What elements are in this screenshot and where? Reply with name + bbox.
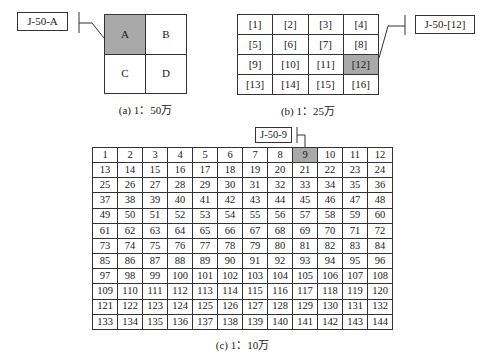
- panel-c-cell: 39: [143, 193, 168, 208]
- panel-b-cell: [4]: [343, 15, 378, 35]
- panel-c-cell: 19: [243, 163, 268, 178]
- panel-c-cell: 89: [193, 254, 218, 269]
- panel-c-cell: 7: [243, 148, 268, 163]
- panel-b-cell: [3]: [308, 15, 343, 35]
- panel-c-cell: 33: [293, 178, 318, 193]
- panel-c-cell: 140: [268, 314, 293, 329]
- panel-b-row: [9][10][11][12]: [238, 55, 379, 75]
- panel-c-cell: 91: [243, 254, 268, 269]
- panel-c-cell: 27: [143, 178, 168, 193]
- panel-c-cell: 70: [318, 223, 343, 238]
- panel-c-cell: 49: [93, 208, 118, 223]
- panel-c-cell: 73: [93, 238, 118, 253]
- panel-c-cell: 104: [268, 269, 293, 284]
- panel-c-cell: 88: [168, 254, 193, 269]
- panel-c-cell: 116: [268, 284, 293, 299]
- panel-b-cell: [7]: [308, 35, 343, 55]
- panel-a-caption: (a) 1：50万: [104, 101, 187, 117]
- panel-c-row: 979899100101102103104105106107108: [93, 269, 393, 284]
- panel-c-cell: 94: [318, 254, 343, 269]
- panel-c-cell: 83: [343, 238, 368, 253]
- panel-c-cell: 138: [218, 314, 243, 329]
- panel-c-cell: 77: [193, 238, 218, 253]
- panel-c-cell: 144: [368, 314, 393, 329]
- panel-c-cell: 12: [368, 148, 393, 163]
- panel-c-cell: 24: [368, 163, 393, 178]
- panel-c-row: 616263646566676869707172: [93, 223, 393, 238]
- panel-c-cell: 124: [168, 299, 193, 314]
- panel-c-cell: 35: [343, 178, 368, 193]
- panel-c-cell: 45: [293, 193, 318, 208]
- panel-c-cell: 85: [93, 254, 118, 269]
- panel-c-cell: 81: [293, 238, 318, 253]
- panel-c-cell: 51: [143, 208, 168, 223]
- panel-c-cell: 52: [168, 208, 193, 223]
- panel-c-row: 131415161718192021222324: [93, 163, 393, 178]
- panel-b-caption: (b) 1：25万: [237, 102, 379, 118]
- panel-c-cell: 62: [118, 223, 143, 238]
- panel-b-row: [13][14][15][16]: [238, 75, 379, 95]
- panel-a-row: CD: [105, 54, 187, 94]
- panel-c-cell: 6: [218, 148, 243, 163]
- panel-c-cell: 133: [93, 314, 118, 329]
- panel-c-cell: 65: [193, 223, 218, 238]
- panel-c-cell: 40: [168, 193, 193, 208]
- panel-c-cell: 92: [268, 254, 293, 269]
- panel-c-cell: 115: [243, 284, 268, 299]
- panel-c-cell: 111: [143, 284, 168, 299]
- panel-c-cell: 74: [118, 238, 143, 253]
- panel-c-cell: 96: [368, 254, 393, 269]
- panel-c-cell: 21: [293, 163, 318, 178]
- panel-c-cell: 110: [118, 284, 143, 299]
- panel-c-cell: 64: [168, 223, 193, 238]
- panel-c-cell: 43: [243, 193, 268, 208]
- panel-c-cell: 119: [343, 284, 368, 299]
- panel-c-cell: 8: [268, 148, 293, 163]
- panel-c-cell: 67: [243, 223, 268, 238]
- panel-c-cell: 130: [318, 299, 343, 314]
- panel-c-cell: 117: [293, 284, 318, 299]
- panel-c-cell: 86: [118, 254, 143, 269]
- panel-b-cell: [9]: [238, 55, 273, 75]
- panel-c-cell: 22: [318, 163, 343, 178]
- panel-c-cell: 76: [168, 238, 193, 253]
- panel-a-cell: C: [105, 54, 146, 94]
- panel-c-cell: 4: [168, 148, 193, 163]
- panel-c-cell: 68: [268, 223, 293, 238]
- panel-c-row: 373839404142434445464748: [93, 193, 393, 208]
- panel-c-cell: 109: [93, 284, 118, 299]
- panel-c-row: 133134135136137138139140141142143144: [93, 314, 393, 329]
- panel-b-cell: [11]: [308, 55, 343, 75]
- panel-c-cell: 15: [143, 163, 168, 178]
- panel-c-row: 858687888990919293949596: [93, 254, 393, 269]
- panel-c-row: 121122123124125126127128129130131132: [93, 299, 393, 314]
- panel-c-cell: 46: [318, 193, 343, 208]
- panel-b-cell: [10]: [273, 55, 308, 75]
- panel-c-cell: 11: [343, 148, 368, 163]
- panel-c-cell: 103: [243, 269, 268, 284]
- panel-c-cell: 141: [293, 314, 318, 329]
- panel-c-cell: 79: [243, 238, 268, 253]
- panel-c-cell: 95: [343, 254, 368, 269]
- panel-c-cell: 25: [93, 178, 118, 193]
- panel-c-cell: 132: [368, 299, 393, 314]
- panel-c-cell: 122: [118, 299, 143, 314]
- panel-c-cell: 93: [293, 254, 318, 269]
- panel-a-cell: D: [146, 54, 187, 94]
- panel-c-cell: 9: [293, 148, 318, 163]
- panel-c-cell: 54: [218, 208, 243, 223]
- panel-c-cell: 102: [218, 269, 243, 284]
- panel-c-cell: 137: [193, 314, 218, 329]
- panel-c-grid: 1234567891011121314151617181920212223242…: [92, 147, 393, 330]
- panel-c-caption: (c) 1：10万: [92, 336, 393, 352]
- panel-c-cell: 100: [168, 269, 193, 284]
- panel-b-cell: [14]: [273, 75, 308, 95]
- panel-c-cell: 57: [293, 208, 318, 223]
- panel-c-cell: 105: [293, 269, 318, 284]
- panel-c-cell: 107: [343, 269, 368, 284]
- panel-c-cell: 16: [168, 163, 193, 178]
- panel-c-cell: 42: [218, 193, 243, 208]
- panel-c-cell: 126: [218, 299, 243, 314]
- panel-c-cell: 29: [193, 178, 218, 193]
- panel-c-cell: 128: [268, 299, 293, 314]
